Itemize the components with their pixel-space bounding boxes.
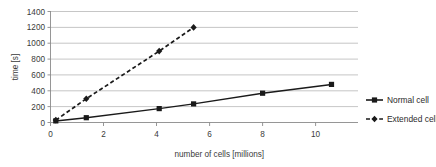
x-tick-label: 2 — [101, 130, 106, 139]
y-tick-label: 1200 — [27, 23, 46, 32]
x-tick-label: 4 — [154, 130, 159, 139]
legend-item-1[interactable]: Normal cell — [366, 95, 429, 105]
y-axis-title: time [s] — [11, 54, 20, 80]
data-point — [191, 101, 196, 106]
x-tick-label: 10 — [311, 130, 321, 139]
y-tick-label: 1000 — [27, 39, 46, 48]
x-axis-ticks: 0246810 — [48, 123, 320, 139]
legend-label: Normal cell — [387, 95, 429, 105]
series-1 — [53, 82, 334, 124]
legend-marker — [372, 97, 377, 102]
x-tick-label: 6 — [207, 130, 212, 139]
legend-label: Extended cell — [387, 114, 436, 124]
legend: Normal cellExtended cell — [366, 95, 436, 124]
x-tick-label: 8 — [260, 130, 265, 139]
legend-marker — [371, 116, 377, 123]
line-chart: 02004006008001000120014000246810number o… — [0, 0, 436, 167]
data-point — [157, 106, 162, 111]
data-point — [191, 24, 197, 31]
x-tick-label: 0 — [48, 130, 53, 139]
data-point — [84, 115, 89, 120]
y-tick-label: 0 — [40, 119, 45, 128]
y-tick-label: 400 — [31, 87, 45, 96]
y-axis-ticks: 0200400600800100012001400 — [27, 8, 51, 128]
x-axis-title: number of cells [millions] — [174, 150, 264, 159]
y-tick-label: 1400 — [27, 8, 46, 17]
legend-item-2[interactable]: Extended cell — [366, 114, 436, 124]
chart-container: 02004006008001000120014000246810number o… — [0, 0, 436, 167]
data-point — [329, 82, 334, 87]
y-tick-label: 200 — [31, 103, 45, 112]
y-tick-label: 800 — [31, 55, 45, 64]
data-point — [260, 91, 265, 96]
series-2 — [53, 24, 197, 123]
y-tick-label: 600 — [31, 71, 45, 80]
